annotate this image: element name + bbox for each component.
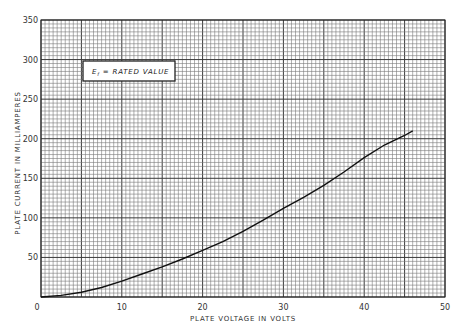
legend-box: Ef = RATED VALUE [83, 61, 175, 81]
y-tick-label: 250 [23, 95, 38, 104]
x-axis-label: PLATE VOLTAGE IN VOLTS [190, 315, 296, 323]
x-tick-label: 30 [278, 303, 288, 312]
x-tick-label: 50 [440, 303, 450, 312]
chart: Ef = RATED VALUE 01020304050 50100150200… [0, 0, 466, 334]
x-tick-label: 20 [198, 303, 208, 312]
x-axis-ticks: 01020304050 [34, 303, 450, 312]
y-tick-label: 200 [23, 135, 38, 144]
y-tick-label: 300 [23, 56, 38, 65]
y-axis-ticks: 50100150200250300350 [23, 16, 38, 262]
x-tick-label: 40 [359, 303, 369, 312]
y-axis-label: PLATE CURRENT IN MILLIAMPERES [14, 91, 22, 234]
y-tick-label: 50 [28, 253, 38, 262]
x-tick-label: 10 [117, 303, 127, 312]
legend-text: Ef = RATED VALUE [92, 68, 169, 77]
x-tick-label: 0 [34, 303, 39, 312]
y-tick-label: 100 [23, 214, 38, 223]
y-tick-label: 150 [23, 174, 38, 183]
y-tick-label: 350 [23, 16, 38, 25]
